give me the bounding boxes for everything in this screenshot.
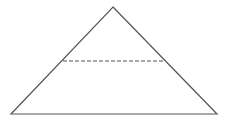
diagram-canvas bbox=[0, 0, 229, 122]
triangle-diagram bbox=[0, 0, 229, 122]
